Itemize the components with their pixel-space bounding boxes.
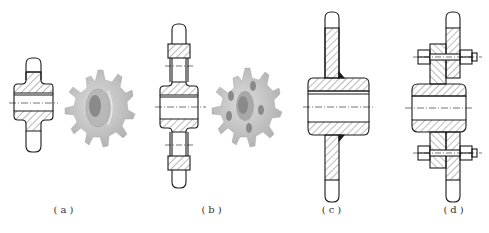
- panel-c-section: [303, 12, 374, 202]
- panel-a-section: [9, 58, 58, 152]
- panel-d-section: [405, 12, 482, 202]
- panel-b-render: [212, 68, 282, 147]
- panel-a-render: [65, 70, 135, 147]
- sprocket-diagram: [0, 0, 489, 233]
- caption-b: (b): [201, 204, 224, 215]
- panel-b-section: [155, 24, 206, 188]
- caption-a: (a): [54, 204, 77, 215]
- caption-d: (d): [443, 204, 466, 215]
- caption-c: (c): [322, 204, 344, 215]
